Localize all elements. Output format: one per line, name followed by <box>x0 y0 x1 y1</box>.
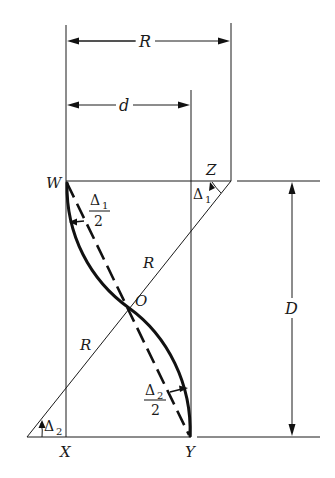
svg-text:1: 1 <box>102 200 108 211</box>
svg-text:Δ: Δ <box>193 186 203 202</box>
r-dimension: R <box>67 32 230 51</box>
svg-text:Δ: Δ <box>145 382 155 398</box>
d-distance-label: D <box>284 299 298 318</box>
radius-upper-label: R <box>142 254 154 272</box>
r-dimension-label: R <box>138 32 151 51</box>
delta2-angle: Δ 2 <box>39 418 63 437</box>
svg-text:2: 2 <box>151 402 160 418</box>
point-y-label: Y <box>185 443 197 461</box>
svg-text:1: 1 <box>205 194 211 205</box>
delta1-angle: Δ 1 <box>193 182 221 205</box>
reverse-curve-diagram: R d D W Z O X Y R R Δ 1 Δ <box>0 0 335 478</box>
half-delta2-angle: Δ 2 2 <box>144 382 188 418</box>
half-delta1-angle: Δ 1 2 <box>69 192 110 229</box>
point-o-label: O <box>135 292 147 310</box>
svg-text:2: 2 <box>94 213 103 229</box>
radius-lower-label: R <box>79 336 91 354</box>
d-dimension: d <box>67 96 190 115</box>
d-distance-dimension: D <box>284 182 298 436</box>
point-z-label: Z <box>205 161 217 179</box>
d-dimension-label: d <box>119 96 129 115</box>
svg-text:2: 2 <box>56 426 62 437</box>
svg-text:2: 2 <box>157 390 163 401</box>
svg-text:Δ: Δ <box>44 418 54 434</box>
svg-text:Δ: Δ <box>90 192 100 208</box>
point-w-label: W <box>46 174 63 192</box>
point-x-label: X <box>59 443 72 461</box>
